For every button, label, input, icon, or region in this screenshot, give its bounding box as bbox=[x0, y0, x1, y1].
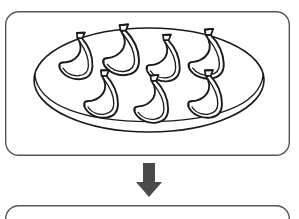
worksheet-canvas bbox=[0, 0, 299, 219]
top-panel bbox=[6, 12, 290, 156]
worksheet-stage: Banana Counting Worksheet Panel Plate of… bbox=[0, 0, 299, 219]
bottom-panel-border bbox=[6, 206, 290, 219]
bottom-panel bbox=[6, 206, 290, 219]
